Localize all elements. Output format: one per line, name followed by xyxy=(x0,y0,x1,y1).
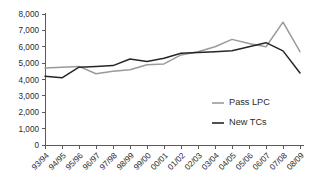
series-line-pass-lpc xyxy=(45,22,300,74)
x-tick-label: 06/07 xyxy=(251,151,272,172)
x-tick-label: 00/01 xyxy=(149,151,170,172)
series-lines xyxy=(45,22,300,78)
chart-canvas: 01,0002,0003,0004,0005,0006,0007,0008,00… xyxy=(0,0,312,189)
y-tick-label: 1,000 xyxy=(19,125,40,134)
y-tick-label: 3,000 xyxy=(19,92,40,101)
y-tick-label: 7,000 xyxy=(19,26,40,35)
x-tick-label: 05/06 xyxy=(234,151,255,172)
x-tick-label: 08/09 xyxy=(285,151,306,172)
x-tick-label: 04/05 xyxy=(217,151,238,172)
x-tick-label: 93/94 xyxy=(30,151,51,172)
x-axis-group: 93/9494/9595/9696/9797/9898/9999/0000/01… xyxy=(30,145,306,172)
y-axis-group: 01,0002,0003,0004,0005,0006,0007,0008,00… xyxy=(19,10,46,150)
chart-legend: Pass LPCNew TCs xyxy=(212,97,270,127)
x-tick-label: 03/04 xyxy=(200,151,221,172)
y-tick-labels: 01,0002,0003,0004,0005,0006,0007,0008,00… xyxy=(19,10,40,150)
y-tick-label: 2,000 xyxy=(19,108,40,117)
x-tick-marks xyxy=(45,145,300,149)
x-tick-label: 01/02 xyxy=(166,151,187,172)
y-tick-label: 0 xyxy=(34,141,39,150)
x-tick-label: 99/00 xyxy=(132,151,153,172)
line-chart: 01,0002,0003,0004,0005,0006,0007,0008,00… xyxy=(0,0,312,189)
y-tick-label: 5,000 xyxy=(19,59,40,68)
legend-label: Pass LPC xyxy=(229,97,270,107)
y-tick-label: 4,000 xyxy=(19,76,40,85)
x-tick-label: 97/98 xyxy=(98,151,119,172)
x-tick-label: 94/95 xyxy=(47,151,68,172)
x-tick-label: 98/99 xyxy=(115,151,136,172)
legend-label: New TCs xyxy=(229,117,267,127)
x-tick-label: 02/03 xyxy=(183,151,204,172)
x-tick-label: 07/08 xyxy=(268,151,289,172)
x-tick-label: 95/96 xyxy=(64,151,85,172)
x-tick-label: 96/97 xyxy=(81,151,102,172)
y-tick-label: 6,000 xyxy=(19,43,40,52)
x-tick-labels: 93/9494/9595/9696/9797/9898/9999/0000/01… xyxy=(30,151,306,172)
y-tick-label: 8,000 xyxy=(19,10,40,19)
